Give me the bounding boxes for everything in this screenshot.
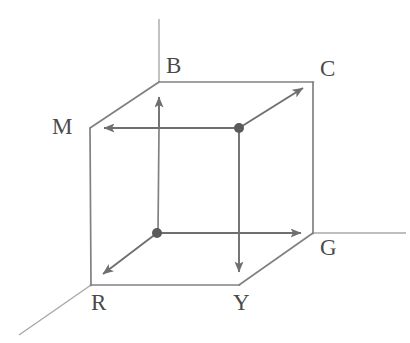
label-cyan: C [320,56,336,81]
rgb-cube-canvas: B C M G R Y [0,0,410,343]
axes-group [19,19,406,335]
white-vertex-dot [234,123,244,133]
rgb-color-cube-figure: B C M G R Y [0,0,410,343]
edge-origin-to-blue-corner [158,128,159,233]
vertex-labels-group: B C M G R Y [52,53,337,315]
edge-yellow-to-green [239,233,313,285]
origin-vertex-dot [152,228,162,238]
label-magenta: M [52,114,73,139]
cyan-arrow-edge [239,88,303,128]
cube-wireframe-group [90,82,314,286]
red-arrow-edge [103,233,157,274]
label-blue: B [166,53,182,78]
edge-magenta-to-blue-corner [90,82,159,128]
vertex-dots-group [152,123,244,238]
label-green: G [320,235,337,260]
edge-magenta-to-red [90,128,91,286]
red-axis-line [19,285,91,335]
label-red: R [91,290,107,315]
label-yellow: Y [233,290,250,315]
arrow-edges-group [103,88,303,274]
